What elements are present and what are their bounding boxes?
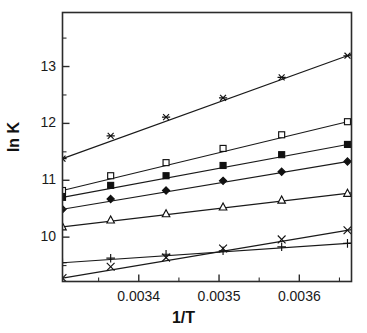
marker-square — [344, 119, 350, 125]
x-ticklabel: 0.0034 — [94, 288, 184, 304]
trend-line — [63, 54, 352, 158]
trend-line — [63, 243, 352, 263]
marker-triangle — [278, 196, 286, 203]
series-layer — [58, 53, 352, 282]
series-series-6 — [59, 226, 352, 282]
marker-asterisk — [162, 114, 170, 120]
series-series-3 — [60, 141, 352, 200]
marker-square — [163, 173, 169, 179]
marker-plus — [277, 243, 286, 252]
plot-canvas — [0, 0, 367, 333]
marker-asterisk — [343, 53, 351, 59]
marker-square — [163, 160, 169, 166]
marker-diamond — [344, 158, 351, 165]
y-ticklabel: 12 — [18, 114, 56, 130]
y-ticklabel: 10 — [18, 228, 56, 244]
marker-triangle — [162, 210, 170, 217]
x-axis-title: 1/T — [0, 309, 367, 327]
marker-triangle — [107, 216, 115, 223]
plot-frame — [63, 13, 352, 282]
x-axis-ticks — [99, 275, 340, 282]
marker-square — [220, 145, 226, 151]
series-series-1 — [58, 53, 351, 162]
marker-square — [108, 182, 114, 188]
series-series-4 — [59, 158, 352, 213]
trend-line — [63, 193, 352, 227]
marker-plus — [162, 250, 171, 259]
y-ticklabel: 13 — [18, 58, 56, 74]
marker-diamond — [162, 187, 169, 194]
series-series-5 — [59, 189, 352, 230]
trend-line — [63, 121, 352, 191]
trend-line — [63, 161, 352, 209]
marker-square — [108, 173, 114, 179]
marker-plus — [219, 246, 228, 255]
chart-figure: 10111213 0.00340.00350.0036 ln K 1/T — [0, 0, 367, 333]
marker-plus — [106, 254, 115, 263]
axes-layer — [63, 13, 352, 282]
marker-diamond — [278, 168, 285, 175]
marker-square — [344, 141, 350, 147]
y-ticklabel: 11 — [18, 171, 56, 187]
marker-cross-x — [278, 236, 286, 244]
trend-line — [63, 144, 352, 198]
marker-triangle — [219, 203, 227, 210]
marker-asterisk — [219, 95, 227, 101]
marker-asterisk — [107, 133, 115, 139]
series-series-2 — [60, 119, 352, 194]
trend-line — [63, 230, 352, 278]
marker-plus — [343, 239, 352, 248]
marker-square — [279, 132, 285, 138]
y-axis-ticks — [63, 38, 70, 265]
marker-square — [279, 152, 285, 158]
marker-square — [220, 162, 226, 168]
x-ticklabel: 0.0035 — [174, 288, 264, 304]
y-axis-title: ln K — [5, 107, 23, 167]
series-series-7 — [58, 239, 352, 267]
x-ticklabel: 0.0036 — [254, 288, 344, 304]
